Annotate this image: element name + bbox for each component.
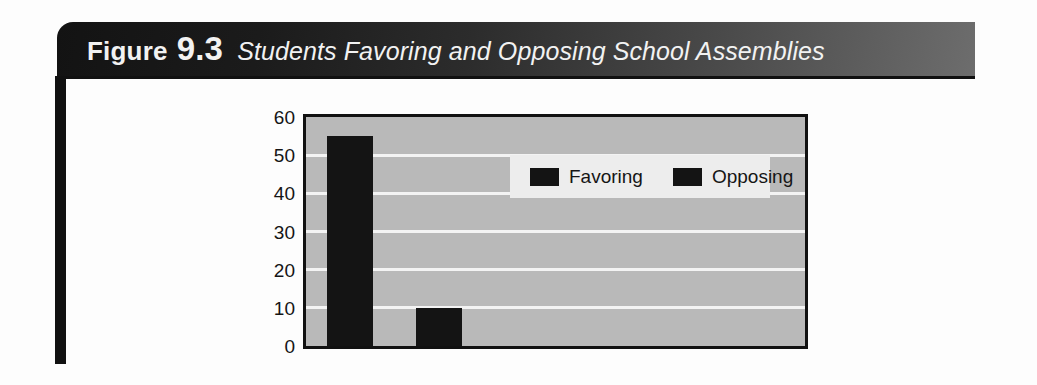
figure-number: 9.3 [177, 30, 223, 67]
left-vertical-rule [55, 76, 66, 364]
plot-area: FavoringOpposing [303, 114, 808, 349]
y-axis-tick-40: 40 [253, 184, 295, 203]
y-axis-tick-30: 30 [253, 222, 295, 241]
gridline-20 [306, 268, 805, 271]
figure-caption: Students Favoring and Opposing School As… [237, 37, 825, 65]
figure-label: Figure [87, 36, 168, 66]
y-axis-tick-60: 60 [253, 108, 295, 127]
legend-label-favoring: Favoring [569, 167, 643, 186]
legend-swatch-icon [530, 168, 559, 186]
y-axis-tick-20: 20 [253, 260, 295, 279]
figure-page: Figure9.3Students Favoring and Opposing … [0, 0, 1037, 385]
bar-favoring [327, 136, 373, 346]
chart-legend: FavoringOpposing [510, 155, 770, 198]
gridline-10 [306, 306, 805, 309]
legend-swatch-icon [673, 168, 702, 186]
y-axis-tick-10: 10 [253, 298, 295, 317]
figure-title-banner: Figure9.3Students Favoring and Opposing … [57, 22, 975, 76]
figure-title-text: Figure9.3Students Favoring and Opposing … [87, 32, 825, 65]
y-axis-tick-50: 50 [253, 146, 295, 165]
legend-label-opposing: Opposing [712, 167, 793, 186]
gridline-30 [306, 230, 805, 233]
bar-opposing [416, 308, 462, 346]
legend-entry-opposing: Opposing [673, 167, 793, 186]
bar-chart: 0102030405060 FavoringOpposing [255, 106, 815, 358]
legend-entry-favoring: Favoring [530, 167, 643, 186]
y-axis-tick-0: 0 [253, 337, 295, 356]
